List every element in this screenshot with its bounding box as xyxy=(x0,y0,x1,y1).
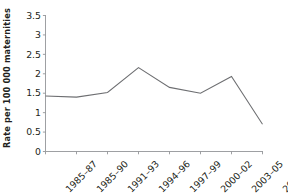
x-axis-tick-label: 2003–05 xyxy=(249,159,284,194)
x-axis-tick-label: 1985–87 xyxy=(63,159,98,194)
chart-figure: Rate per 100 000 maternities 00.511.522.… xyxy=(0,0,288,193)
x-axis-tick-label: 1991–93 xyxy=(125,159,160,194)
x-axis-tick-label: 1997–99 xyxy=(187,159,222,194)
x-axis-tick-label: 2000–02 xyxy=(218,159,253,194)
x-axis-tick-label: 1994–96 xyxy=(156,159,191,194)
x-axis-tick-labels: 1985–871985–901991–931994–961997–992000–… xyxy=(0,0,288,193)
x-axis-tick-label: 1985–90 xyxy=(94,159,129,194)
